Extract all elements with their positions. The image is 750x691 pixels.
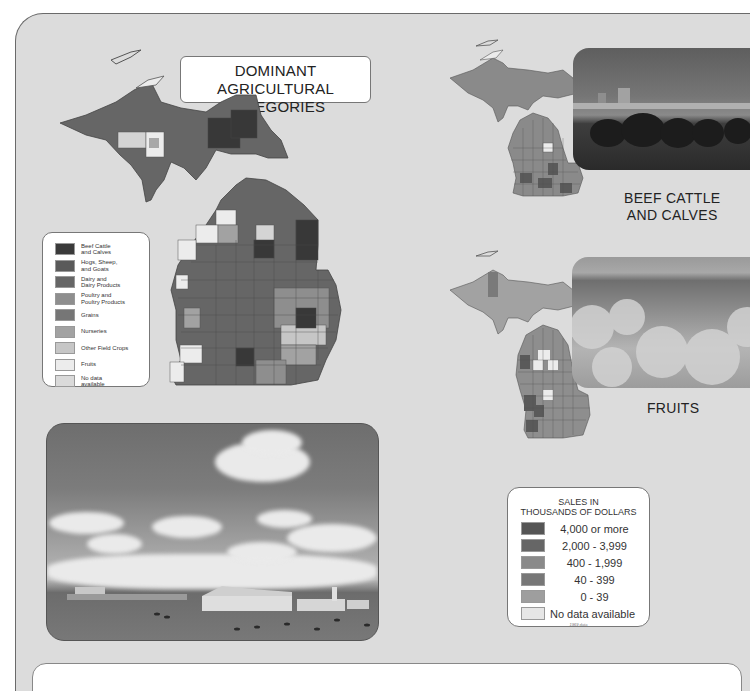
legend-label: Beef Cattle and Calves [81, 243, 111, 256]
beef-label-line1: BEEF CATTLE [624, 190, 720, 207]
swatch-grains [55, 309, 75, 321]
beef-label-line2: AND CALVES [624, 207, 720, 224]
swatch-dairy [55, 276, 75, 288]
legend-label: Fruits [81, 361, 96, 368]
swatch-poultry [55, 293, 75, 305]
fruit-orchard-photo [572, 257, 750, 388]
legend-label: No data available [81, 375, 105, 388]
swatch-hogs-sheep-goats [55, 260, 75, 272]
swatch-fruits [55, 359, 75, 371]
legend-item-nurseries: Nurseries [55, 324, 149, 340]
swatch-nurseries [55, 326, 75, 338]
legend-label: Grains [81, 312, 99, 319]
legend-item-no-data: No data available [55, 373, 149, 389]
sales-header-line2: THOUSANDS OF DOLLARS [508, 507, 649, 517]
sales-label: No data available [550, 608, 649, 620]
fruits-label: FRUITS [647, 400, 699, 417]
sales-item-no-data: No data available [508, 605, 649, 622]
bottom-caption-panel [32, 663, 742, 691]
swatch-2000-3999 [521, 539, 545, 552]
sales-label: 400 - 1,999 [550, 557, 649, 569]
sales-label: 0 - 39 [550, 591, 649, 603]
legend-label: Dairy and Dairy Products [81, 276, 120, 289]
legend-label: Nurseries [81, 328, 107, 335]
sales-legend-header: SALES IN THOUSANDS OF DOLLARS [508, 497, 649, 517]
swatch-beef-cattle [55, 243, 75, 255]
legend-item-dairy: Dairy and Dairy Products [55, 274, 149, 290]
beef-cattle-label: BEEF CATTLE AND CALVES [624, 190, 720, 224]
farm-landscape-photo [46, 423, 379, 641]
sales-legend: SALES IN THOUSANDS OF DOLLARS 4,000 or m… [507, 487, 650, 627]
sales-header-line1: SALES IN [508, 497, 649, 507]
sales-label: 2,000 - 3,999 [550, 540, 649, 552]
legend-item-poultry: Poultry and Poultry Products [55, 291, 149, 307]
swatch-no-data [55, 375, 75, 387]
sales-label: 40 - 399 [550, 574, 649, 586]
legend-item-beef-cattle: Beef Cattle and Calves [55, 241, 149, 257]
swatch-no-data [521, 607, 545, 620]
legend-label: Poultry and Poultry Products [81, 292, 125, 305]
sales-item-40-399: 40 - 399 [508, 571, 649, 588]
sales-item-4000-plus: 4,000 or more [508, 520, 649, 537]
data-year-note: 1969 data [508, 622, 649, 627]
swatch-other-field-crops [55, 342, 75, 354]
sales-label: 4,000 or more [550, 523, 649, 535]
legend-item-other-field-crops: Other Field Crops [55, 340, 149, 356]
legend-label: Hogs, Sheep, and Goats [81, 259, 117, 272]
swatch-4000-plus [521, 522, 545, 535]
beef-cattle-photo [573, 48, 750, 170]
sales-item-2000-3999: 2,000 - 3,999 [508, 537, 649, 554]
swatch-40-399 [521, 573, 545, 586]
category-legend: Beef Cattle and Calves Hogs, Sheep, and … [42, 232, 150, 387]
swatch-400-1999 [521, 556, 545, 569]
legend-item-hogs-sheep-goats: Hogs, Sheep, and Goats [55, 258, 149, 274]
swatch-0-39 [521, 590, 545, 603]
legend-item-fruits: Fruits [55, 357, 149, 373]
sales-item-400-1999: 400 - 1,999 [508, 554, 649, 571]
legend-label: Other Field Crops [81, 345, 128, 352]
sales-item-0-39: 0 - 39 [508, 588, 649, 605]
legend-item-grains: Grains [55, 307, 149, 323]
